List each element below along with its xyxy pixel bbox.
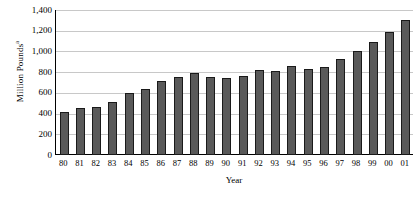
- bar: [141, 89, 150, 155]
- y-axis-tick-label: 1,000: [16, 47, 52, 56]
- y-axis-tick-label: 1,200: [16, 26, 52, 35]
- bar: [174, 77, 183, 155]
- plot-area: [55, 10, 413, 155]
- bar: [60, 112, 69, 156]
- bar-series: [56, 10, 413, 155]
- bar: [287, 66, 296, 155]
- bar: [190, 73, 199, 155]
- bar: [271, 71, 280, 155]
- y-axis-tick-label: 400: [16, 109, 52, 118]
- y-axis-tick-label: 200: [16, 130, 52, 139]
- y-axis-tick-label: 1,400: [16, 6, 52, 15]
- bar: [401, 20, 410, 155]
- y-axis-tick-label: 600: [16, 88, 52, 97]
- bar: [255, 70, 264, 155]
- bar-chart: Million Poundsa 02004006008001,0001,2001…: [0, 0, 420, 198]
- bar: [385, 32, 394, 155]
- y-axis-tick-label: 800: [16, 68, 52, 77]
- bar: [206, 77, 215, 155]
- x-axis-tick-labels: 8081828384858687888990919293949596979899…: [55, 158, 413, 172]
- bar: [125, 93, 134, 155]
- x-axis-title: Year: [55, 175, 413, 185]
- bar: [369, 42, 378, 155]
- bar: [108, 102, 117, 155]
- bar: [157, 81, 166, 155]
- bar: [320, 67, 329, 155]
- bar: [76, 108, 85, 155]
- y-axis-tick-labels: 02004006008001,0001,2001,400: [16, 0, 52, 198]
- bar: [222, 78, 231, 155]
- y-axis-tick-label: 0: [16, 151, 52, 160]
- bar: [336, 59, 345, 155]
- bar: [304, 69, 313, 155]
- x-axis-tick-label: 01: [394, 158, 416, 168]
- bar: [92, 107, 101, 155]
- bar: [353, 51, 362, 155]
- bar: [239, 76, 248, 155]
